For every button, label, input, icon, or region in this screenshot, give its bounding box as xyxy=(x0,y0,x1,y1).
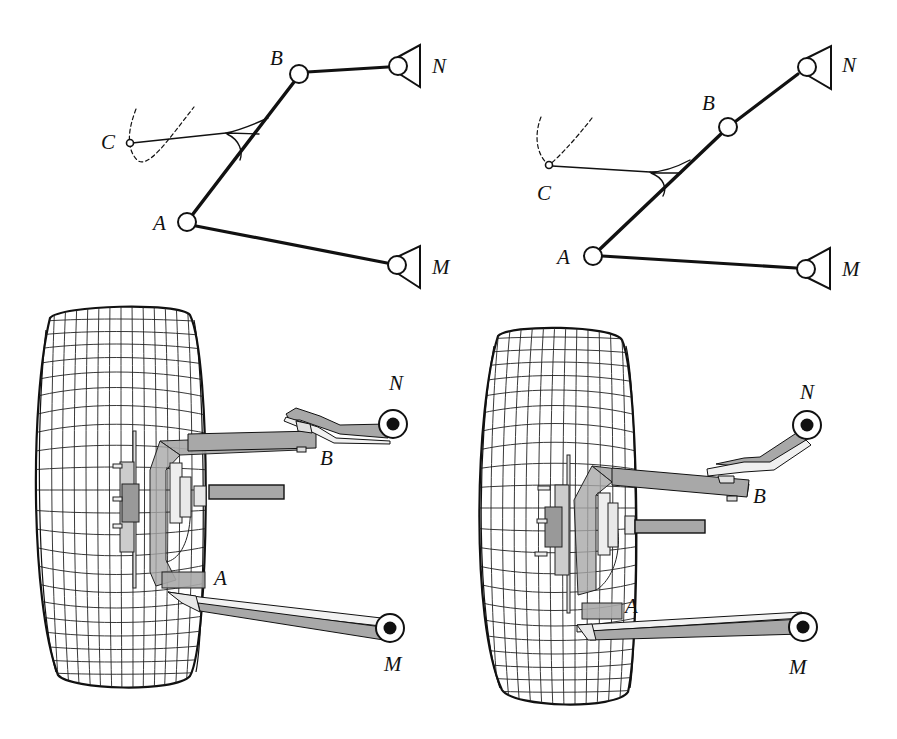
bushing-n-icon xyxy=(793,411,821,439)
label-m: M xyxy=(842,259,860,280)
suspension-figure: B N C A M N B C A M N B A M N B A M xyxy=(0,0,897,739)
label-b: B xyxy=(702,93,715,114)
label-a: A xyxy=(557,247,570,268)
label-c: C xyxy=(537,183,551,204)
label-b: B xyxy=(320,448,333,469)
upper-arm-right xyxy=(612,432,811,501)
bushing-m-icon xyxy=(789,613,817,641)
label-m: M xyxy=(432,257,450,278)
label-b: B xyxy=(270,48,283,69)
label-a: A xyxy=(214,568,227,589)
upper-arm-left xyxy=(188,408,390,452)
label-a: A xyxy=(625,596,638,617)
label-n: N xyxy=(432,56,446,77)
label-n: N xyxy=(800,382,814,403)
label-n: N xyxy=(842,55,856,76)
label-m: M xyxy=(384,654,402,675)
bushing-m-icon xyxy=(376,614,404,642)
label-b: B xyxy=(753,486,766,507)
label-m: M xyxy=(789,657,807,678)
wheel-assembly-left xyxy=(0,0,897,739)
bushing-n-icon xyxy=(379,410,407,438)
label-a: A xyxy=(153,213,166,234)
label-n: N xyxy=(389,373,403,394)
label-c: C xyxy=(101,132,115,153)
